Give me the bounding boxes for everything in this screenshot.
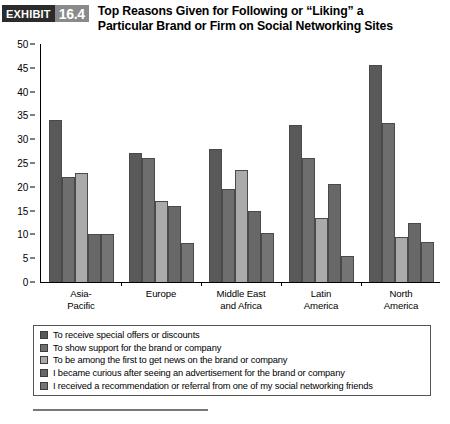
bar <box>408 223 421 283</box>
y-axis-tick-label: 0 <box>2 277 28 288</box>
legend-swatch-icon <box>40 331 48 339</box>
bar <box>289 125 302 282</box>
x-axis-category-label: Middle Eastand Africa <box>201 288 281 311</box>
y-axis-tick-label: 15 <box>2 205 28 216</box>
bar <box>181 243 194 282</box>
x-axis-category-label: Europe <box>121 288 201 311</box>
legend-label: I received a recommendation or referral … <box>53 381 373 391</box>
bar <box>75 173 88 282</box>
x-axis-tick-mark <box>201 282 202 286</box>
bar <box>421 242 434 282</box>
bar <box>88 234 101 282</box>
x-axis-line <box>40 282 440 283</box>
y-axis-tick-label: 30 <box>2 134 28 145</box>
bar <box>328 184 341 282</box>
bar <box>129 153 142 282</box>
category-label-line-1: Asia- <box>41 288 121 300</box>
bar <box>395 237 408 282</box>
x-axis-tick-mark <box>121 282 122 286</box>
y-axis-tick-label: 5 <box>2 253 28 264</box>
category-label-line-2: America <box>361 300 441 312</box>
category-label-line-2: America <box>281 300 361 312</box>
y-axis-tick-label: 40 <box>2 86 28 97</box>
bar-group <box>41 44 121 282</box>
legend-label: To receive special offers or discounts <box>53 330 200 340</box>
bar <box>302 158 315 282</box>
category-label-line-1: Latin <box>281 288 361 300</box>
x-axis-category-label: NorthAmerica <box>361 288 441 311</box>
legend-item: To show support for the brand or company <box>40 342 425 355</box>
x-axis-tick-mark <box>361 282 362 286</box>
legend-label: To be among the first to get news on the… <box>53 355 287 365</box>
bar-group <box>361 44 441 282</box>
legend-item: To be among the first to get news on the… <box>40 354 425 367</box>
y-axis-tick-mark <box>30 163 35 164</box>
y-axis-tick-label: 45 <box>2 62 28 73</box>
legend-item: I received a recommendation or referral … <box>40 379 425 392</box>
bar <box>168 206 181 282</box>
bar <box>235 170 248 282</box>
bar <box>142 158 155 282</box>
exhibit-badge: EXHIBIT 16.4 <box>2 5 89 22</box>
y-axis-tick-label: 35 <box>2 110 28 121</box>
legend-swatch-icon <box>40 356 48 364</box>
bar <box>62 177 75 282</box>
exhibit-header: EXHIBIT 16.4 Top Reasons Given for Follo… <box>0 0 450 42</box>
bar <box>261 233 274 282</box>
chart-legend: To receive special offers or discountsTo… <box>33 325 431 396</box>
exhibit-number-label: 16.4 <box>55 5 89 22</box>
y-axis-tick-mark <box>30 139 35 140</box>
category-label-line-1: Middle East <box>201 288 281 300</box>
y-axis-tick-mark <box>30 282 35 283</box>
page-title: Top Reasons Given for Following or “Liki… <box>98 4 446 33</box>
category-label-line-2: and Africa <box>201 300 281 312</box>
y-axis: 05101520253035404550 <box>0 44 36 282</box>
y-axis-tick-label: 25 <box>2 158 28 169</box>
category-label-line-2: Pacific <box>41 300 121 312</box>
y-axis-tick-mark <box>30 91 35 92</box>
bar <box>382 123 395 282</box>
category-label-line-1: North <box>361 288 441 300</box>
y-axis-tick-mark <box>30 234 35 235</box>
bar <box>222 189 235 282</box>
bar-group <box>121 44 201 282</box>
legend-label: I became curious after seeing an adverti… <box>53 368 345 378</box>
bar <box>49 120 62 282</box>
legend-swatch-icon <box>40 369 48 377</box>
bar <box>315 218 328 282</box>
bar-group <box>281 44 361 282</box>
y-axis-tick-mark <box>30 210 35 211</box>
y-axis-tick-mark <box>30 186 35 187</box>
bar <box>248 211 261 282</box>
y-axis-tick-label: 10 <box>2 229 28 240</box>
legend-label: To show support for the brand or company <box>53 343 221 353</box>
x-axis-category-labels: Asia-PacificEuropeMiddle Eastand AfricaL… <box>41 288 441 311</box>
bar <box>101 234 114 282</box>
category-label-line-1: Europe <box>121 288 201 300</box>
bar-group <box>201 44 281 282</box>
legend-swatch-icon <box>40 344 48 352</box>
y-axis-tick-label: 20 <box>2 181 28 192</box>
bar-groups <box>41 44 441 282</box>
chart-plot-area: 05101520253035404550 Asia-PacificEuropeM… <box>0 44 450 302</box>
x-axis-category-label: Asia-Pacific <box>41 288 121 311</box>
bar <box>369 65 382 282</box>
x-axis-tick-mark <box>281 282 282 286</box>
bar <box>341 256 354 282</box>
y-axis-tick-mark <box>30 67 35 68</box>
exhibit-word-label: EXHIBIT <box>2 5 55 22</box>
y-axis-tick-mark <box>30 115 35 116</box>
bar <box>209 149 222 282</box>
x-axis-category-label: LatinAmerica <box>281 288 361 311</box>
y-axis-tick-mark <box>30 258 35 259</box>
bar <box>155 201 168 282</box>
y-axis-tick-mark <box>30 44 35 45</box>
chart-title-line-1: Top Reasons Given for Following or “Liki… <box>98 4 446 19</box>
legend-swatch-icon <box>40 382 48 390</box>
legend-item: To receive special offers or discounts <box>40 329 425 342</box>
legend-item: I became curious after seeing an adverti… <box>40 367 425 380</box>
footer-rule <box>33 409 208 411</box>
y-axis-tick-label: 50 <box>2 39 28 50</box>
chart-title-line-2: Particular Brand or Firm on Social Netwo… <box>98 19 446 34</box>
